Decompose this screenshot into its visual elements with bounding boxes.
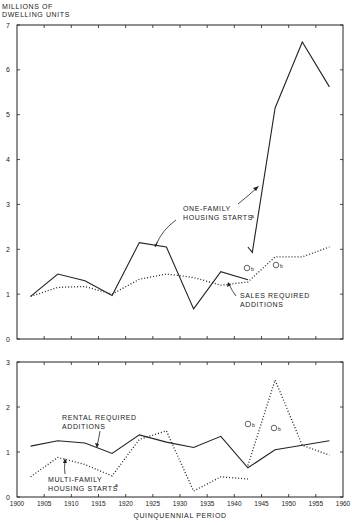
footnote-b-3: b xyxy=(252,422,255,428)
y-tick-label: 4 xyxy=(6,156,10,163)
x-tick-label: 1925 xyxy=(146,500,161,507)
multi-superscript: a xyxy=(115,482,118,488)
y-tick-label: 2 xyxy=(6,246,10,253)
x-tick-label: 1930 xyxy=(173,500,188,507)
y-tick-label: 3 xyxy=(6,201,10,208)
x-tick-label: 1915 xyxy=(91,500,106,507)
sales-arrow xyxy=(229,284,236,296)
x-tick-label: 1940 xyxy=(227,500,242,507)
footnote-b-1: b xyxy=(251,266,254,272)
one-family-superscript: a xyxy=(251,213,254,219)
rental-label-line1: RENTAL REQUIRED xyxy=(62,414,137,422)
x-tick-label: 1945 xyxy=(254,500,269,507)
footnote-b-4: b xyxy=(278,426,281,432)
series-line xyxy=(31,247,330,296)
one-family-label-line2: HOUSING STARTS xyxy=(183,214,253,221)
y-axis-title-line1: MILLIONS OF xyxy=(2,3,53,10)
x-axis-title: QUINQUENNIAL PERIOD xyxy=(133,512,226,520)
series-line xyxy=(31,435,330,468)
series-line xyxy=(31,243,248,309)
arrowhead-icon xyxy=(154,241,158,247)
one-family-label-line1: ONE-FAMILY xyxy=(183,205,231,212)
x-tick-label: 1900 xyxy=(10,500,25,507)
sales-label-line1: SALES REQUIRED xyxy=(240,292,310,300)
x-tick-label: 1955 xyxy=(309,500,324,507)
multi-label-line1: MULTI-FAMILY xyxy=(48,476,102,483)
x-tick-label: 1960 xyxy=(336,500,351,507)
x-tick-label: 1935 xyxy=(200,500,215,507)
footnote-b-marker-icon xyxy=(245,421,251,427)
footnote-b-marker-icon xyxy=(244,265,250,271)
y-tick-label: 5 xyxy=(6,111,10,118)
x-tick-label: 1910 xyxy=(64,500,79,507)
footnote-b-marker-icon xyxy=(273,262,279,268)
y-tick-label: 7 xyxy=(6,22,10,29)
top-series xyxy=(31,42,330,309)
footnote-b-marker-icon xyxy=(271,425,277,431)
y-tick-label: 6 xyxy=(6,66,10,73)
y-tick-label: 3 xyxy=(6,359,10,366)
series-line xyxy=(248,380,330,466)
series-line xyxy=(248,42,330,252)
x-tick-label: 1920 xyxy=(118,500,133,507)
x-tick-label: 1950 xyxy=(281,500,296,507)
y-tick-label: 2 xyxy=(6,404,10,411)
y-tick-label: 1 xyxy=(6,291,10,298)
y-axis-title-line2: DWELLING UNITS xyxy=(2,11,70,18)
one-family-arrow-left xyxy=(156,220,176,245)
y-tick-label: 1 xyxy=(6,449,10,456)
bottom-series xyxy=(31,380,330,491)
housing-chart: MILLIONS OF DWELLING UNITS 01234567 ONE-… xyxy=(0,0,352,525)
multi-label-line2: HOUSING STARTS xyxy=(48,485,118,492)
rental-label-line2: ADDITIONS xyxy=(62,423,106,430)
footnote-b-2: b xyxy=(280,263,283,269)
y-tick-label: 0 xyxy=(6,336,10,343)
x-tick-label: 1905 xyxy=(37,500,52,507)
sales-label-line2: ADDITIONS xyxy=(240,301,284,308)
